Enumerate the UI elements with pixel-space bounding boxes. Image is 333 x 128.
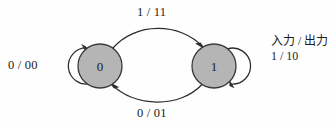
state-node-0[interactable]: 0 bbox=[78, 44, 122, 88]
edge-label-self-loop-state-1: 1 / 10 bbox=[271, 49, 328, 64]
transition-edge-0-to-1[interactable] bbox=[113, 28, 205, 48]
transition-arc-0-to-1 bbox=[113, 28, 204, 48]
legend-input-output-caption: 入力 / 出力 bbox=[271, 34, 328, 49]
transition-edge-1-to-0[interactable] bbox=[110, 82, 202, 102]
transition-arc-1-to-0 bbox=[111, 84, 202, 102]
edge-label-transition-0-to-1: 1 / 11 bbox=[137, 5, 166, 19]
edge-label-self-loop-state-0: 0 / 00 bbox=[8, 58, 38, 72]
state-node-1-label: 1 bbox=[211, 59, 218, 74]
state-node-0-label: 0 bbox=[97, 59, 104, 74]
legend-input-output: 入力 / 出力 1 / 10 bbox=[271, 34, 328, 65]
state-node-1[interactable]: 1 bbox=[192, 44, 236, 88]
edge-label-transition-1-to-0: 0 / 01 bbox=[137, 106, 167, 120]
state-diagram-canvas: 0 1 0 / 00 1 / 11 0 / 01 入力 / 出力 1 / 10 bbox=[0, 0, 333, 128]
